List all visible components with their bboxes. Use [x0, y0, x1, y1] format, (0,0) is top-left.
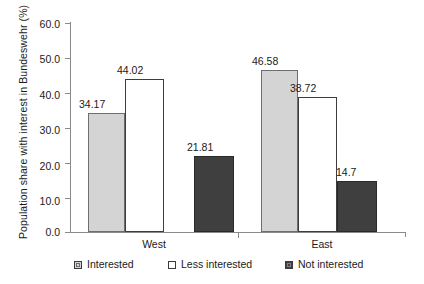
legend-item-less-interested[interactable]: Less interested: [168, 259, 252, 270]
bar-value-west-interested: 34.17: [79, 99, 105, 110]
y-tick-label-20: 20.0: [20, 161, 60, 171]
x-tick-divider: [238, 232, 239, 238]
y-tick-label-50: 50.0: [20, 54, 60, 64]
bar-east-interested[interactable]: [261, 70, 298, 232]
legend-label-not-interested: Not interested: [298, 259, 363, 270]
bar-value-east-interested: 46.58: [252, 56, 278, 67]
legend-label-interested: Interested: [87, 259, 134, 270]
bar-value-west-not-interested: 21.81: [187, 142, 213, 153]
bar-value-east-not-interested: 14.7: [336, 167, 356, 178]
bar-west-interested[interactable]: [88, 113, 125, 232]
bar-west-not-interested[interactable]: [194, 156, 234, 232]
legend-label-less-interested: Less interested: [181, 259, 252, 270]
legend-item-not-interested[interactable]: Not interested: [285, 259, 363, 270]
y-tick-label-60: 60.0: [20, 19, 60, 29]
legend-swatch-less-interested-icon: [168, 261, 176, 269]
bar-east-less-interested[interactable]: [298, 97, 337, 232]
legend-swatch-not-interested-icon: [285, 261, 293, 269]
x-category-label-west: West: [109, 238, 199, 250]
bar-value-west-less-interested: 44.02: [117, 65, 143, 76]
plot-area: 34.17 44.02 21.81 46.58 38.72 14.7: [70, 23, 405, 232]
chart-legend: Interested Less interested Not intereste…: [70, 259, 410, 275]
legend-item-interested[interactable]: Interested: [74, 259, 134, 270]
y-tick-label-40: 40.0: [20, 90, 60, 100]
legend-swatch-interested-icon: [74, 261, 82, 269]
bar-west-less-interested[interactable]: [125, 79, 164, 232]
y-tick-label-10: 10.0: [20, 196, 60, 206]
x-axis-endcap: [405, 232, 406, 237]
x-category-label-east: East: [277, 238, 367, 250]
bar-chart: Population share with interest in Bundes…: [0, 0, 424, 284]
y-tick-label-30: 30.0: [20, 125, 60, 135]
bar-east-not-interested[interactable]: [337, 181, 377, 232]
y-tick-label-0: 0.0: [20, 227, 60, 237]
bar-value-east-less-interested: 38.72: [290, 83, 316, 94]
